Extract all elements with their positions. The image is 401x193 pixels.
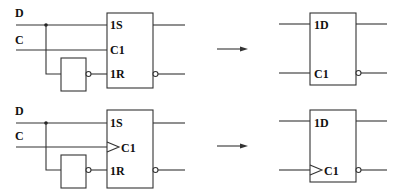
pin-1r: 1R <box>110 164 125 178</box>
inverter-bubble <box>86 168 91 173</box>
qbar-bubble <box>356 71 361 76</box>
inverter-bubble <box>86 72 91 77</box>
qbar-bubble <box>153 72 158 77</box>
pin-c1: C1 <box>110 43 125 57</box>
input-c-label: C <box>15 129 24 143</box>
circuit-diagram: D C 1S C1 1R 1D C1 D C <box>0 0 401 193</box>
pin-c1: C1 <box>121 141 136 155</box>
pin-1s: 1S <box>110 116 123 130</box>
pin-1d: 1D <box>314 116 329 130</box>
pin-1r: 1R <box>110 67 125 81</box>
qbar-bubble <box>356 168 361 173</box>
equivalence-arrow <box>217 47 248 52</box>
input-d-label: D <box>15 104 24 118</box>
row-edge-triggered: D C 1S C1 1R 1D C1 <box>15 104 387 188</box>
row-level-triggered: D C 1S C1 1R 1D C1 <box>15 6 387 91</box>
inverter-gate <box>61 155 86 188</box>
input-d-label: D <box>15 6 24 20</box>
qbar-bubble <box>153 168 158 173</box>
pin-c1: C1 <box>314 67 329 81</box>
pin-c1: C1 <box>324 164 339 178</box>
pin-1d: 1D <box>314 18 329 32</box>
pin-1s: 1S <box>110 18 123 32</box>
equivalence-arrow <box>217 144 248 149</box>
inverter-gate <box>61 58 86 91</box>
input-c-label: C <box>15 33 24 47</box>
